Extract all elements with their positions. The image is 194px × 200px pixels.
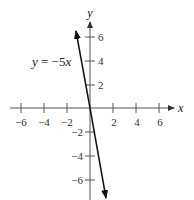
x-tick-label: −6: [15, 116, 27, 128]
x-tick-label: 4: [134, 116, 140, 128]
y-tick-label: −4: [71, 150, 83, 162]
x-tick-labels: −6 −4 −2 2 4 6: [15, 116, 163, 128]
y-tick-label: −2: [71, 126, 83, 138]
y-tick-label: 2: [98, 79, 104, 91]
x-tick-label: 2: [111, 116, 117, 128]
y-tick-label: 6: [98, 31, 104, 43]
y-axis-label: y: [86, 6, 93, 20]
equation-label: y = −5x: [30, 54, 71, 69]
x-tick-label: 6: [157, 116, 163, 128]
line-y-equals-neg5x: [76, 31, 90, 108]
chart-canvas: −6 −4 −2 2 4 6 6 4 2 −2 −4 −6 y x y = −5…: [0, 0, 194, 200]
x-tick-label: −4: [38, 116, 50, 128]
x-axis-label: x: [177, 101, 184, 115]
y-tick-label: −6: [71, 174, 83, 186]
y-tick-label: 4: [98, 55, 104, 67]
line-y-equals-neg5x-lower: [90, 108, 106, 198]
